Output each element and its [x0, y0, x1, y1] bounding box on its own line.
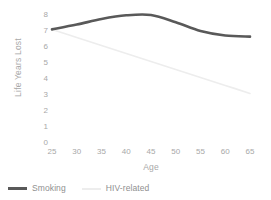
x-tick-40: 40 — [113, 148, 139, 156]
x-tick-60: 60 — [212, 148, 238, 156]
legend-swatch-hiv-related-icon — [82, 188, 101, 190]
x-tick-55: 55 — [188, 148, 214, 156]
line-chart: 8 7 6 5 4 3 2 1 0 Life Years Lost 25 30 … — [0, 0, 271, 200]
legend-item-smoking[interactable]: Smoking — [8, 184, 66, 193]
x-tick-35: 35 — [89, 148, 115, 156]
x-tick-45: 45 — [138, 148, 164, 156]
legend-swatch-smoking-icon — [8, 187, 27, 190]
plot-area — [52, 15, 250, 143]
legend-label-hiv-related: HIV-related — [106, 184, 150, 193]
series-line-smoking — [52, 14, 250, 36]
x-tick-50: 50 — [163, 148, 189, 156]
x-axis-tick-labels: 25 30 35 40 45 50 55 60 65 — [0, 148, 271, 160]
x-axis-title: Age — [52, 163, 250, 172]
x-tick-65: 65 — [237, 148, 263, 156]
x-tick-25: 25 — [39, 148, 65, 156]
series-line-hiv-related — [52, 29, 250, 93]
x-tick-30: 30 — [64, 148, 90, 156]
chart-legend: Smoking HIV-related — [8, 184, 149, 193]
legend-label-smoking: Smoking — [32, 184, 66, 193]
legend-item-hiv-related[interactable]: HIV-related — [82, 184, 150, 193]
